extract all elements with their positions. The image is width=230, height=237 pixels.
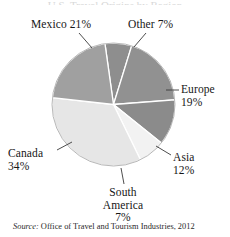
pie-chart-figure: U.S. Travel Origins by Region Mexico 21%…: [0, 0, 230, 237]
pie-label-europe: Europe 19%: [181, 83, 215, 108]
pie-label-canada-pct: 34%: [8, 160, 43, 173]
pie-label-mexico: Mexico 21%: [31, 18, 91, 31]
pie-label-canada: Canada 34%: [8, 147, 43, 172]
pie-label-south-america-name2: America: [95, 199, 151, 212]
pie-label-canada-name: Canada: [8, 147, 43, 159]
leader-line-mexico: [79, 33, 92, 48]
leader-line-other: [134, 33, 146, 47]
source-text: Office of Travel and Tourism Industries,…: [39, 222, 195, 231]
pie-label-asia-name: Asia: [173, 151, 194, 163]
pie-label-mexico-pct: 21%: [70, 18, 91, 30]
pie-label-mexico-name: Mexico: [31, 18, 67, 30]
pie-label-other-name: Other: [128, 18, 155, 30]
pie-slice-group: [52, 43, 175, 166]
pie-label-other: Other 7%: [128, 18, 173, 31]
pie-label-other-pct: 7%: [158, 18, 174, 30]
pie-label-asia: Asia 12%: [173, 151, 194, 176]
pie-label-europe-name: Europe: [181, 83, 215, 95]
pie-label-south-america: South America 7%: [95, 186, 151, 224]
leader-line-south-america: [121, 168, 124, 184]
pie-label-asia-pct: 12%: [173, 164, 194, 177]
source-note: Source: Office of Travel and Tourism Ind…: [13, 222, 195, 232]
pie-slice-mexico: [52, 44, 113, 105]
leader-line-asia: [156, 146, 171, 155]
pie-label-south-america-name: South: [109, 186, 136, 198]
source-label: Source:: [13, 222, 39, 231]
pie-label-europe-pct: 19%: [181, 96, 215, 109]
